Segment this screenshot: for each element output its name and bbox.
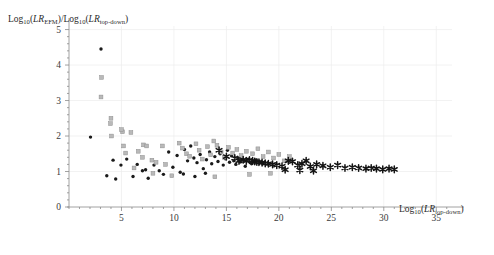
y-tick-label: 2 (56, 131, 61, 141)
data-points (89, 47, 397, 180)
data-point-circle (125, 157, 128, 160)
data-point-square (99, 95, 103, 99)
data-point-square (100, 76, 104, 80)
grid-lines (69, 26, 452, 207)
data-point-circle (186, 159, 189, 162)
data-point-circle (204, 172, 207, 175)
data-point-square (132, 166, 136, 170)
data-point-circle (136, 163, 139, 166)
data-point-circle (213, 155, 216, 158)
y-tick-label: 1 (56, 167, 61, 177)
data-point-circle (193, 175, 196, 178)
data-point-circle (244, 164, 247, 167)
data-point-square (212, 139, 216, 143)
data-point-circle (147, 177, 150, 180)
data-point-square (122, 144, 126, 148)
data-point-circle (216, 160, 219, 163)
data-point-square (231, 151, 235, 155)
data-point-square (261, 155, 265, 159)
data-point-circle (111, 158, 114, 161)
data-point-square (120, 128, 124, 132)
data-point-circle (119, 163, 122, 166)
data-point-circle (189, 144, 192, 147)
data-point-square (129, 131, 133, 135)
data-point-square (109, 122, 113, 126)
data-point-star (356, 165, 362, 172)
data-point-star (349, 164, 355, 171)
data-point-circle (99, 47, 102, 50)
data-point-square (235, 148, 239, 152)
data-point-circle (182, 172, 185, 175)
data-point-circle (141, 169, 144, 172)
data-point-square (209, 153, 213, 157)
axes (67, 18, 464, 209)
data-point-square (177, 141, 181, 145)
data-point-circle (228, 161, 231, 164)
data-point-square (206, 145, 210, 149)
data-point-square (227, 145, 231, 149)
data-point-circle (162, 173, 165, 176)
data-point-star (342, 165, 348, 172)
scatter-plot-svg: 5101520253035012345 Log10(LREFM)/Log10(L… (0, 0, 494, 255)
chart-figure: 5101520253035012345 Log10(LREFM)/Log10(L… (0, 0, 494, 255)
data-point-star (327, 164, 333, 171)
data-point-square (110, 134, 114, 138)
x-tick-label: 15 (222, 213, 232, 223)
data-point-circle (131, 175, 134, 178)
data-point-circle (205, 158, 208, 161)
data-point-circle (192, 156, 195, 159)
data-point-square (164, 163, 168, 167)
data-point-square (269, 171, 273, 175)
y-axis-label: Log10(LREFM)/Log10(LRtop-down) (8, 14, 128, 25)
data-point-square (272, 156, 276, 160)
data-point-square (124, 151, 128, 155)
data-point-square (170, 174, 174, 178)
data-point-star (320, 163, 326, 170)
data-point-square (160, 144, 164, 148)
data-point-star (335, 162, 341, 169)
data-point-square (145, 144, 149, 148)
y-tick-label: 5 (56, 25, 61, 35)
data-point-square (277, 153, 281, 157)
x-tick-label: 30 (379, 213, 389, 223)
x-tick-label: 25 (327, 213, 337, 223)
data-point-square (197, 148, 201, 152)
data-point-square (136, 149, 140, 153)
data-point-square (215, 143, 219, 147)
data-point-circle (175, 154, 178, 157)
data-point-square (213, 175, 217, 179)
data-point-circle (198, 153, 201, 156)
data-point-square (266, 150, 270, 154)
data-point-circle (195, 161, 198, 164)
data-point-square (194, 142, 198, 146)
data-point-square (256, 147, 260, 151)
data-point-square (180, 146, 184, 150)
data-point-star (311, 168, 317, 175)
y-tick-label: 3 (56, 96, 61, 106)
data-point-square (188, 154, 192, 158)
data-point-circle (144, 168, 147, 171)
y-tick-label: 0 (56, 202, 61, 212)
data-point-circle (105, 174, 108, 177)
data-point-square (239, 154, 243, 158)
data-point-circle (89, 135, 92, 138)
data-point-circle (202, 167, 205, 170)
x-tick-label: 10 (169, 213, 179, 223)
data-point-square (150, 158, 154, 162)
x-axis-label: Log10(LRtop-down) (399, 204, 464, 215)
data-point-circle (210, 162, 213, 165)
tick-marks (65, 30, 447, 211)
data-point-square (200, 157, 204, 161)
data-point-square (141, 155, 145, 159)
data-point-circle (171, 166, 174, 169)
data-point-square (248, 172, 252, 176)
data-point-square (109, 116, 113, 120)
data-point-circle (179, 171, 182, 174)
x-tick-label: 5 (119, 213, 124, 223)
data-point-square (251, 152, 255, 156)
data-point-circle (167, 150, 170, 153)
data-point-square (151, 171, 155, 175)
data-point-circle (234, 163, 237, 166)
x-tick-label: 20 (274, 213, 284, 223)
data-point-circle (158, 169, 161, 172)
